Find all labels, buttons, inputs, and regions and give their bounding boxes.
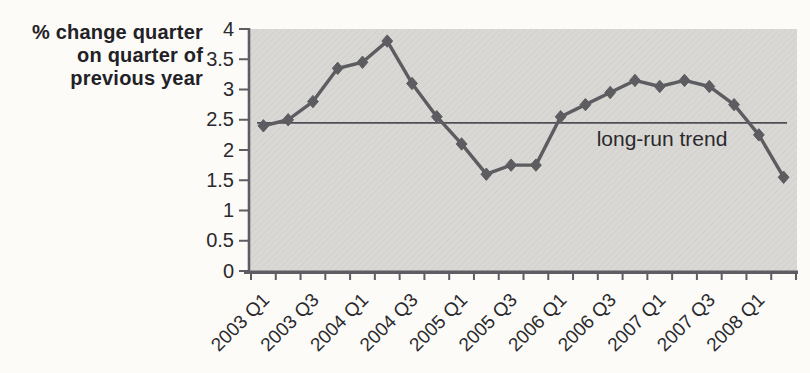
y-tick-label: 1.5: [206, 169, 234, 191]
line-chart: 00.511.522.533.542003 Q12003 Q32004 Q120…: [0, 0, 810, 373]
y-tick-label: 0: [223, 260, 234, 282]
y-tick-label: 3.5: [206, 48, 234, 70]
y-tick-label: 1: [223, 199, 234, 221]
y-tick-label: 0.5: [206, 229, 234, 251]
chart-figure: % change quarter on quarter of previous …: [0, 0, 810, 373]
y-tick-label: 2: [223, 139, 234, 161]
y-tick-label: 3: [223, 78, 234, 100]
trend-label: long-run trend: [597, 127, 728, 150]
plot-area-texture: [249, 29, 797, 271]
y-tick-label: 4: [223, 18, 234, 40]
y-tick-label: 2.5: [206, 108, 234, 130]
